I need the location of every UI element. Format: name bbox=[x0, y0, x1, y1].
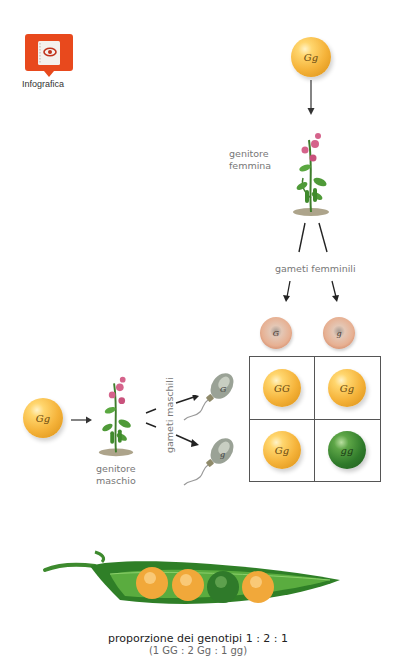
label-line: genitore bbox=[96, 463, 136, 475]
genotype-label: Gg bbox=[36, 413, 50, 424]
pea-plant-icon bbox=[92, 372, 140, 460]
down-arrow-icon bbox=[306, 80, 316, 116]
allele-label: G bbox=[220, 385, 227, 394]
genotype-label: GG bbox=[274, 383, 290, 394]
pea-plant-icon bbox=[287, 128, 335, 220]
punnett-cell-pea: Gg bbox=[328, 369, 366, 407]
genotype-label: Gg bbox=[304, 52, 318, 63]
badge-label: Infografica bbox=[22, 79, 64, 89]
genotype-ratio-caption: proporzione dei genotipi 1 : 2 : 1 bbox=[0, 632, 396, 645]
punnett-cell-pea: Gg bbox=[263, 431, 301, 469]
book-eye-icon bbox=[25, 34, 73, 78]
pea-highlight bbox=[250, 576, 262, 588]
pea-highlight bbox=[144, 572, 156, 584]
allele-label: g bbox=[336, 329, 341, 338]
sperm-cell: G bbox=[182, 370, 246, 422]
punnett-cell-pea: gg bbox=[328, 431, 366, 469]
label-line: genitore bbox=[229, 148, 271, 160]
allele-label: G bbox=[273, 329, 279, 338]
label-line: maschio bbox=[96, 475, 136, 487]
female-parent-genotype-ball: Gg bbox=[291, 37, 331, 77]
pea-pod bbox=[40, 540, 360, 620]
punnett-square: GG Gg Gg gg bbox=[249, 356, 381, 482]
right-arrow-icon bbox=[71, 415, 93, 425]
pea-highlight bbox=[215, 576, 227, 588]
punnett-cell-pea: GG bbox=[263, 369, 301, 407]
male-parent-label: genitore maschio bbox=[96, 463, 136, 487]
allele-label: g bbox=[220, 450, 225, 459]
egg-cell: g bbox=[323, 317, 355, 349]
infografica-badge[interactable] bbox=[25, 34, 73, 78]
pea-highlight bbox=[180, 574, 192, 586]
gamete-arrows bbox=[280, 280, 350, 304]
label-line: femmina bbox=[229, 160, 271, 172]
male-parent-genotype-ball: Gg bbox=[23, 398, 63, 438]
genotype-label: gg bbox=[341, 445, 354, 456]
female-gametes-label: gameti femminili bbox=[275, 263, 356, 275]
genotype-label: Gg bbox=[275, 445, 289, 456]
grid-divider bbox=[250, 419, 380, 420]
split-lines bbox=[295, 222, 335, 254]
sperm-cell: g bbox=[182, 433, 246, 489]
egg-cell: G bbox=[260, 317, 292, 349]
female-parent-label: genitore femmina bbox=[229, 148, 271, 172]
genotype-label: Gg bbox=[340, 383, 354, 394]
genotype-ratio-detail: (1 GG : 2 Gg : 1 gg) bbox=[0, 645, 396, 656]
